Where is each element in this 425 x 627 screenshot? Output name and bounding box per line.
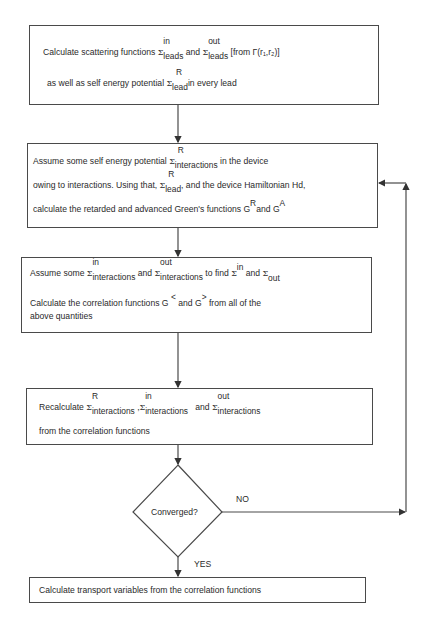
step3-line2: Calculate the correlation functions G < …: [30, 299, 261, 308]
step2-line3: calculate the retarded and advanced Gree…: [33, 205, 285, 214]
step4-line1: Recalculate ΣRinteractions ,Σininteracti…: [39, 403, 260, 412]
step4-line2: from the correlation functions: [39, 427, 150, 436]
step-scattering-functions: Calculate scattering functions Σinleads …: [29, 25, 379, 105]
step2-line2: owing to interactions. Using that, ΣRlea…: [33, 181, 305, 190]
step5-text: Calculate transport variables from the c…: [39, 586, 261, 595]
step1-line1: Calculate scattering functions Σinleads …: [43, 48, 280, 57]
step-recalculate: Recalculate ΣRinteractions ,Σininteracti…: [26, 388, 373, 445]
decision-no-label: NO: [236, 494, 249, 504]
step-correlation-functions: Assume some Σininteractions and Σoutinte…: [21, 257, 372, 333]
step3-line3: above quantities: [30, 312, 93, 321]
step2-line1: Assume some self energy potential ΣRinte…: [33, 157, 268, 166]
step-assume-self-energy: Assume some self energy potential ΣRinte…: [27, 143, 378, 228]
step3-line1: Assume some Σininteractions and Σoutinte…: [30, 269, 280, 278]
step-transport-variables: Calculate transport variables from the c…: [29, 577, 366, 603]
decision-label: Converged?: [151, 507, 198, 517]
decision-yes-label: YES: [194, 559, 211, 569]
step1-line2: as well as self energy potential ΣRleadi…: [47, 79, 237, 88]
